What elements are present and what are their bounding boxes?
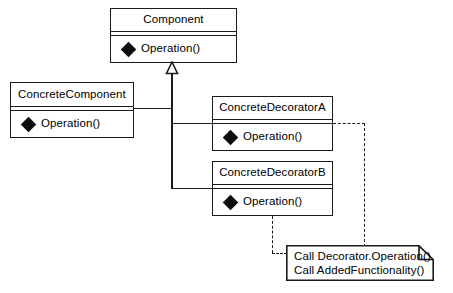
uml-class-component[interactable]: Component Operation() <box>110 8 237 63</box>
class-operations-component: Operation() <box>111 36 236 62</box>
class-name-component: Component <box>111 9 236 31</box>
class-name-concrete-decorator-b: ConcreteDecoratorB <box>213 162 332 184</box>
inheritance-triangle-icon <box>165 61 179 75</box>
generalization-branch-decorator-a <box>171 123 213 125</box>
class-name-concrete-component: ConcreteComponent <box>11 83 133 106</box>
operation-label: Operation() <box>41 118 100 130</box>
generalization-branch-concrete-component <box>133 108 173 110</box>
dependency-decorator-a-vertical <box>364 123 365 247</box>
generalization-branch-decorator-b <box>171 188 213 190</box>
uml-class-diagram: Component Operation() ConcreteComponent … <box>0 0 453 293</box>
dependency-decorator-a-horizontal <box>333 123 365 124</box>
uml-class-concrete-decorator-a[interactable]: ConcreteDecoratorA Operation() <box>212 96 333 151</box>
uml-note[interactable]: Call Decorator.Operation() Call AddedFun… <box>286 245 434 281</box>
uml-class-concrete-decorator-b[interactable]: ConcreteDecoratorB Operation() <box>212 161 333 216</box>
dependency-decorator-b-horizontal <box>272 253 287 254</box>
operation-label: Operation() <box>243 196 302 208</box>
operation-row: Operation() <box>123 43 200 55</box>
note-line-1: Call Decorator.Operation() <box>294 250 432 264</box>
class-operations-concrete-decorator-a: Operation() <box>213 124 332 150</box>
operation-label: Operation() <box>243 131 302 143</box>
operation-label: Operation() <box>141 43 200 55</box>
operation-row: Operation() <box>23 118 100 130</box>
uml-class-concrete-component[interactable]: ConcreteComponent Operation() <box>10 82 134 138</box>
generalization-spine-vertical <box>171 73 173 189</box>
operation-row: Operation() <box>225 196 302 208</box>
note-line-2: Call AddedFunctionality() <box>294 264 432 278</box>
note-text: Call Decorator.Operation() Call AddedFun… <box>294 250 432 277</box>
dependency-decorator-b-vertical <box>272 216 273 253</box>
class-operations-concrete-decorator-b: Operation() <box>213 189 332 215</box>
black-diamond-icon <box>21 116 37 132</box>
class-operations-concrete-component: Operation() <box>11 111 133 137</box>
operation-row: Operation() <box>225 131 302 143</box>
black-diamond-icon <box>223 129 239 145</box>
class-name-concrete-decorator-a: ConcreteDecoratorA <box>213 97 332 119</box>
black-diamond-icon <box>121 41 137 57</box>
black-diamond-icon <box>223 194 239 210</box>
